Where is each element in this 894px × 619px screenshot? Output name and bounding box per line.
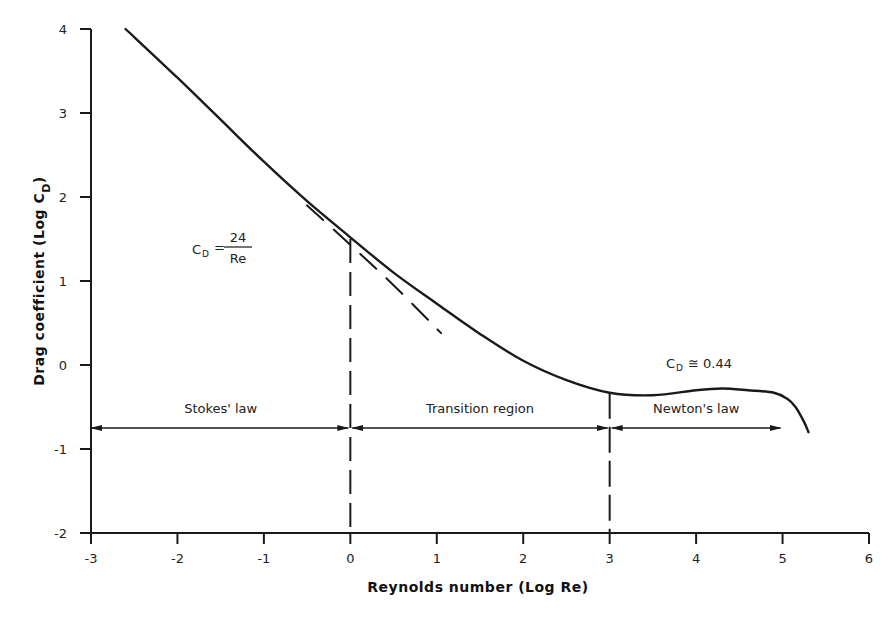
stokes-formula-c: C [192, 242, 201, 257]
stokes-formula-numerator: 24 [230, 230, 247, 245]
svg-text:Drag coefficient (Log CD): Drag coefficient (Log CD) [31, 176, 53, 386]
y-tick-label: -1 [54, 442, 67, 457]
newton-formula-c: C [666, 356, 675, 371]
stokes-extrapolation-line [307, 205, 441, 333]
y-axis-title-close: ) [31, 176, 47, 183]
region-label: Newton's law [653, 401, 740, 416]
x-tick-label: -3 [85, 551, 98, 566]
y-axis-title: Drag coefficient (Log CD) [31, 176, 53, 386]
y-tick-label: 3 [59, 106, 67, 121]
x-tick-label: 4 [692, 551, 700, 566]
data-series [126, 29, 809, 432]
region-label: Transition region [425, 401, 534, 416]
x-tick-label: 5 [778, 551, 786, 566]
newton-formula-subscript: D [676, 363, 683, 373]
stokes-formula-denominator: Re [230, 251, 246, 266]
stokes-formula-subscript: D [202, 249, 209, 259]
y-tick-label: 0 [59, 358, 67, 373]
region-arrows: Stokes' lawTransition regionNewton's law [91, 401, 781, 428]
x-tick-label: 6 [865, 551, 873, 566]
y-axis-title-main: Drag coefficient (Log C [31, 193, 47, 386]
x-tick-label: 3 [606, 551, 614, 566]
region-boundaries [350, 239, 609, 533]
y-axis-ticks: -2-101234 [54, 22, 91, 541]
y-axis-title-subscript: D [40, 183, 53, 193]
newton-formula-value: ≅ 0.44 [688, 356, 732, 371]
drag-curve [126, 29, 809, 432]
stokes-formula-equals: = [214, 240, 225, 255]
y-tick-label: 4 [59, 22, 67, 37]
annotations: CD=24ReCD≅ 0.44 [192, 230, 732, 373]
x-axis-ticks: -3-2-10123456 [85, 533, 874, 566]
x-tick-label: -2 [171, 551, 184, 566]
x-tick-label: -1 [257, 551, 270, 566]
region-label: Stokes' law [184, 401, 257, 416]
x-axis-title: Reynolds number (Log Re) [367, 579, 588, 595]
y-tick-label: 2 [59, 190, 67, 205]
y-tick-label: -2 [54, 526, 67, 541]
y-tick-label: 1 [59, 274, 67, 289]
x-tick-label: 1 [433, 551, 441, 566]
axes [91, 29, 869, 533]
x-tick-label: 2 [519, 551, 527, 566]
drag-coefficient-chart: -2-101234 -3-2-10123456 Stokes' lawTrans… [0, 0, 894, 619]
x-tick-label: 0 [346, 551, 354, 566]
